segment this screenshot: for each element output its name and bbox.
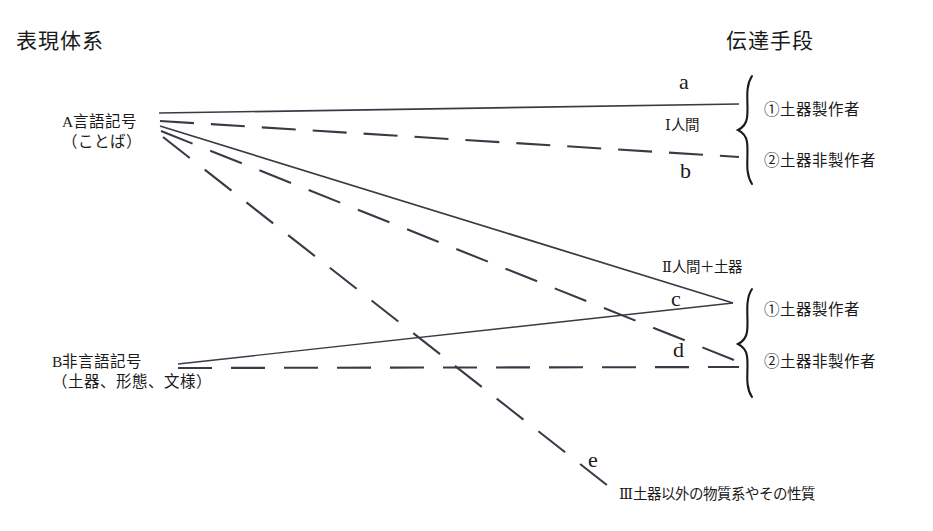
page-title-left: 表現体系 — [16, 28, 104, 55]
edge-letter-e: e — [588, 446, 598, 474]
brace-group-ii — [738, 289, 752, 397]
node-a-label-main: A言語記号 — [62, 113, 137, 130]
group-i-item-1: ①土器製作者 — [764, 100, 860, 120]
node-a-label-sub: （ことば） — [62, 132, 142, 152]
edge-d-line — [161, 131, 739, 362]
node-b[interactable]: B非言語記号 （土器、形態、文様） — [52, 352, 212, 392]
edge-letter-b: b — [680, 157, 691, 185]
node-a[interactable]: A言語記号 （ことば） — [62, 112, 142, 152]
edge-letter-c: c — [671, 285, 681, 313]
edge-letter-a: a — [679, 68, 689, 96]
group-label-ii: Ⅱ人間＋土器 — [662, 258, 742, 277]
edge-e-line — [163, 137, 612, 489]
diagram-canvas: 表現体系 伝達手段 A言語記号 （ことば） B非言語記号 （土器、形態、文様） … — [0, 0, 933, 531]
edge-c-line — [160, 126, 733, 303]
node-b-label-main: B非言語記号 — [52, 353, 142, 370]
brace-group-i — [738, 76, 752, 184]
node-b-label-sub: （土器、形態、文様） — [52, 372, 212, 392]
group-i-item-2: ②土器非製作者 — [764, 151, 876, 171]
group-ii-item-2: ②土器非製作者 — [764, 352, 876, 372]
group-label-i: Ⅰ人間 — [665, 116, 699, 135]
edge-b-line — [160, 121, 739, 157]
edge-a-line — [159, 104, 739, 113]
edge-b-to-d-line — [178, 367, 739, 368]
edge-letter-d: d — [673, 336, 684, 364]
edge-b-to-c-line — [178, 303, 733, 364]
page-title-right: 伝達手段 — [726, 28, 814, 55]
group-ii-item-1: ①土器製作者 — [764, 300, 860, 320]
group-label-iii: Ⅲ土器以外の物質系やその性質 — [619, 485, 815, 504]
edge-lines-layer — [0, 0, 933, 531]
